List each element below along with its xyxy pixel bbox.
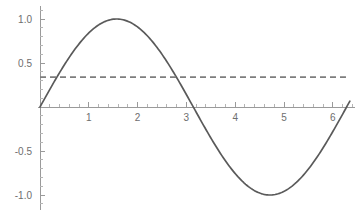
y-axis-tick-label: -1.0 [15, 190, 33, 201]
y-axis-tick-label: -0.5 [15, 146, 33, 157]
x-axis-tick-label: 3 [184, 112, 190, 123]
y-axis-tick-label: 0.5 [18, 58, 32, 69]
x-axis-tick-label: 6 [330, 112, 336, 123]
x-axis-tick-label: 5 [281, 112, 287, 123]
y-axis-tick-label: 1.0 [18, 14, 32, 25]
x-axis-tick-label: 4 [232, 112, 238, 123]
x-axis-tick-label: 1 [86, 112, 92, 123]
x-axis-tick-label: 2 [135, 112, 141, 123]
plot-canvas: 1234561.00.5-0.5-1.0 [0, 0, 357, 215]
sine-plot-figure: 1234561.00.5-0.5-1.0 [0, 0, 357, 215]
